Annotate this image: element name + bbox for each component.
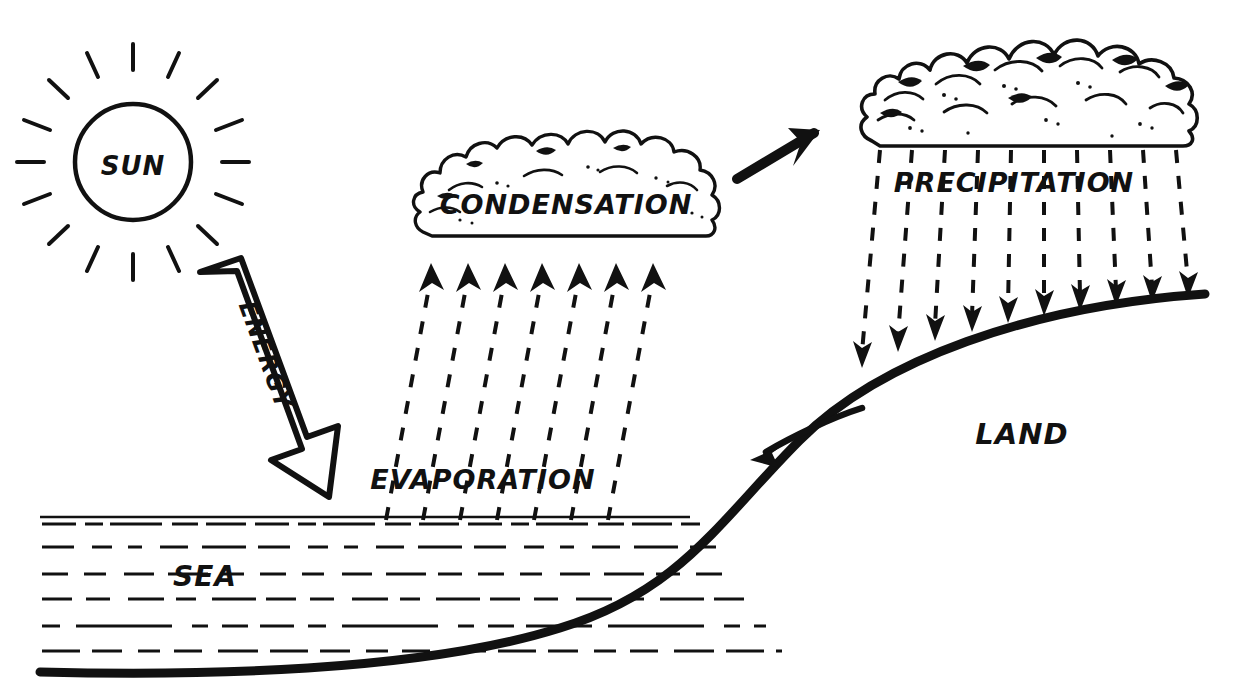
sea: SEA bbox=[40, 517, 782, 651]
water-cycle-diagram: SUN ENERGY CONDENSATION bbox=[0, 0, 1256, 699]
sea-water-lines bbox=[42, 524, 782, 651]
runoff-arrow-shaft bbox=[766, 408, 862, 452]
precipitation-cloud bbox=[861, 40, 1197, 146]
sea-label: SEA bbox=[173, 560, 237, 593]
transport-arrow bbox=[737, 128, 820, 179]
land: LAND bbox=[40, 294, 1205, 673]
precipitation-arrows: PRECIPITATION bbox=[853, 150, 1198, 368]
energy-arrow: ENERGY bbox=[200, 258, 338, 497]
condensation-cloud: CONDENSATION bbox=[414, 131, 720, 236]
precipitation-label: PRECIPITATION bbox=[894, 167, 1134, 198]
evaporation-arrows: EVAPORATION bbox=[370, 263, 666, 520]
condensation-label: CONDENSATION bbox=[440, 189, 693, 220]
sun-label: SUN bbox=[101, 151, 166, 181]
diagram-canvas: SUN ENERGY CONDENSATION bbox=[0, 0, 1256, 699]
evaporation-arrowheads bbox=[419, 263, 666, 292]
sun: SUN bbox=[17, 44, 249, 280]
land-label: LAND bbox=[975, 417, 1068, 451]
evaporation-label: EVAPORATION bbox=[370, 464, 595, 495]
energy-label: ENERGY bbox=[233, 297, 299, 415]
land-profile-line bbox=[40, 294, 1205, 673]
